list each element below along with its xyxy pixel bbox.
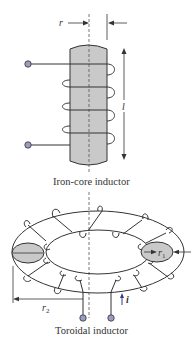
toroid-terminal-right: [108, 315, 114, 321]
r1-outer-arrowhead: [173, 250, 179, 254]
current-label: i: [126, 294, 129, 305]
current-arrowhead: [120, 293, 124, 298]
radius-arrowhead-right: [108, 21, 114, 26]
length-arrowhead-top: [122, 48, 127, 54]
r2-label: r2: [42, 302, 50, 315]
iron-core-caption: Iron-core inductor: [53, 176, 130, 187]
iron-core-cylinder: [70, 45, 107, 165]
length-arrowhead-bottom: [122, 154, 127, 160]
toroid-terminal-left: [80, 315, 86, 321]
iron-core-inductor: r l: [25, 14, 128, 172]
length-label: l: [122, 101, 125, 112]
radius-label: r: [59, 17, 63, 28]
toroidal-inductor: r1 r2 i: [12, 192, 191, 321]
r2-arrowhead: [13, 297, 19, 301]
inductor-diagram: r l: [0, 0, 196, 339]
torus-inner-edge: [46, 230, 150, 274]
terminal-top: [25, 61, 31, 67]
radius-arrowhead-left: [83, 21, 89, 26]
toroid-caption: Toroidal inductor: [55, 325, 128, 336]
terminal-bottom: [25, 142, 31, 148]
